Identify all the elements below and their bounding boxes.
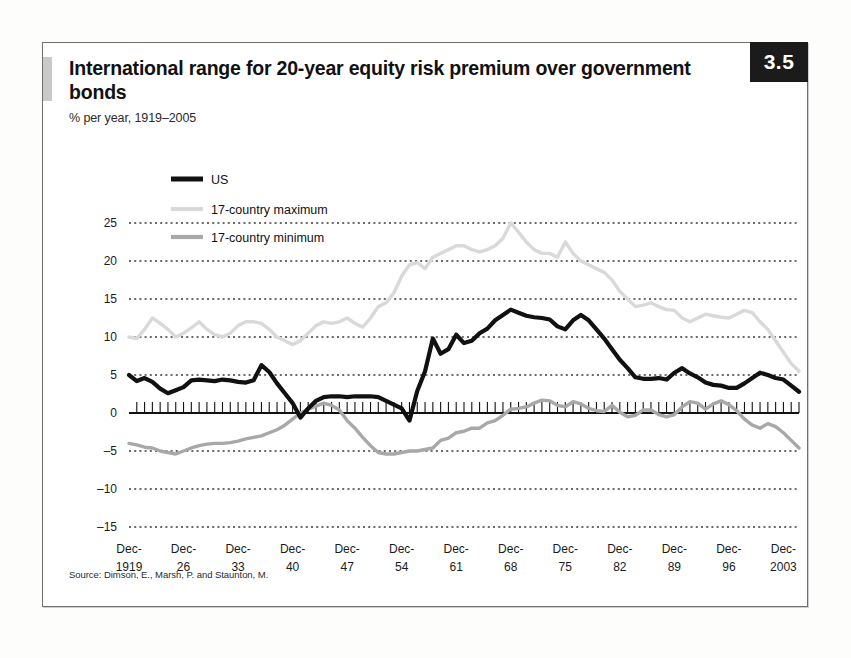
y-tick-label: 15 — [104, 292, 118, 306]
x-tick-label: 40 — [286, 560, 300, 574]
x-tick-label: Dec- — [498, 542, 523, 556]
x-tick-label: 47 — [340, 560, 354, 574]
x-tick-label: Dec- — [116, 542, 141, 556]
x-tick-label: Dec- — [444, 542, 469, 556]
x-tick-label: Dec- — [716, 542, 741, 556]
x-tick-label: Dec- — [553, 542, 578, 556]
x-tick-label: Dec- — [171, 542, 196, 556]
y-tick-label: 10 — [104, 330, 118, 344]
x-tick-label: 54 — [395, 560, 409, 574]
x-tick-label: 2003 — [770, 560, 797, 574]
series-lines — [129, 223, 799, 454]
y-tick-label: 0 — [110, 406, 117, 420]
figure-number-text: 3.5 — [764, 50, 795, 74]
x-tick-label: Dec- — [280, 542, 305, 556]
y-tick-label: 20 — [104, 254, 118, 268]
series-line-17-country-maximum — [129, 223, 799, 371]
x-tick-label: 82 — [613, 560, 627, 574]
gridlines — [129, 223, 799, 527]
y-tick-label: 25 — [104, 216, 118, 230]
y-tick-label: –15 — [97, 520, 117, 534]
x-tick-label: Dec- — [607, 542, 632, 556]
x-tick-label: Dec- — [389, 542, 414, 556]
figure-frame: 3.5 International range for 20-year equi… — [42, 42, 808, 607]
source-note: Source: Dimson, E., Marsh, P. and Staunt… — [69, 569, 268, 580]
x-tick-label: Dec- — [662, 542, 687, 556]
x-tick-label: Dec- — [334, 542, 359, 556]
title-accent-bar — [43, 57, 52, 101]
figure-page: 3.5 International range for 20-year equi… — [0, 0, 851, 658]
legend-label: 17-country maximum — [211, 203, 328, 217]
y-tick-label: –5 — [104, 444, 118, 458]
legend-label: US — [211, 173, 228, 187]
chart-title: International range for 20-year equity r… — [69, 57, 709, 105]
line-chart-svg: 2520151050–5–10–15 Dec-1919Dec-26Dec-33D… — [43, 161, 809, 591]
x-tick-label: 61 — [450, 560, 464, 574]
figure-number-badge: 3.5 — [750, 42, 808, 82]
x-tick-label: Dec- — [225, 542, 250, 556]
y-axis-labels: 2520151050–5–10–15 — [97, 216, 117, 534]
x-tick-label: 68 — [504, 560, 518, 574]
x-tick-label: 96 — [722, 560, 736, 574]
title-block: International range for 20-year equity r… — [69, 57, 709, 125]
x-tick-label: Dec- — [771, 542, 796, 556]
x-tick-label: 75 — [559, 560, 573, 574]
y-tick-label: 5 — [110, 368, 117, 382]
chart-subtitle: % per year, 1919–2005 — [69, 111, 709, 125]
y-tick-label: –10 — [97, 482, 117, 496]
legend-label: 17-country minimum — [211, 231, 324, 245]
x-tick-label: 89 — [668, 560, 682, 574]
plot-area: 2520151050–5–10–15 Dec-1919Dec-26Dec-33D… — [43, 161, 809, 591]
chart-legend: US17-country maximum17-country minimum — [171, 173, 328, 245]
